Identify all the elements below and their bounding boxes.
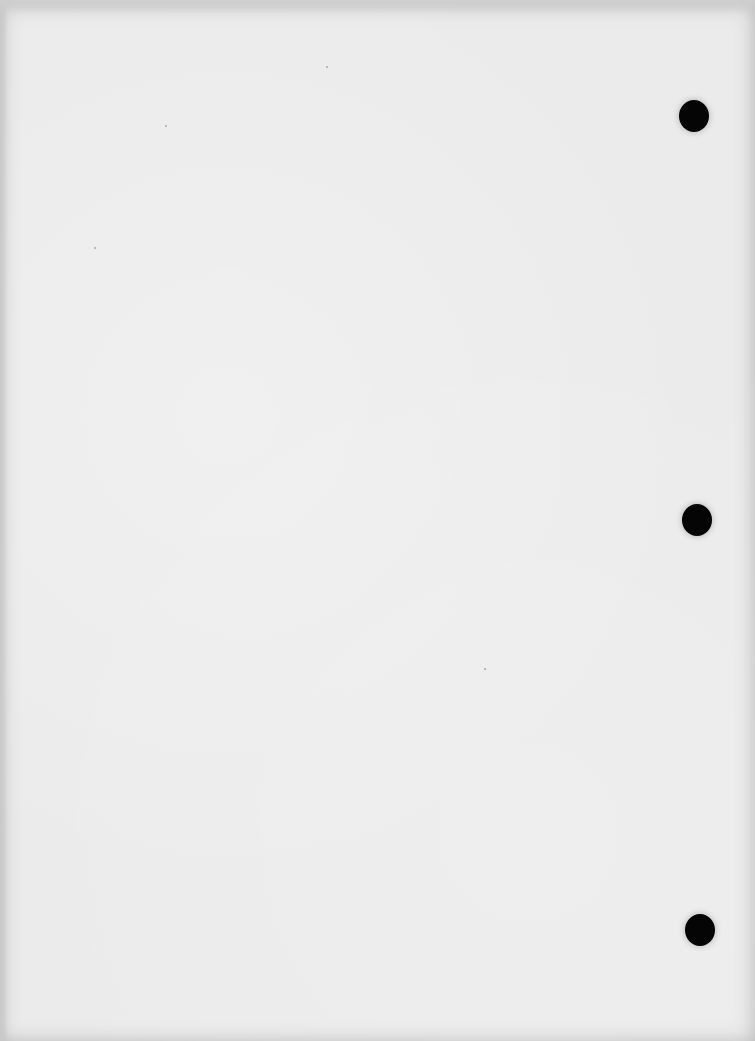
punch-hole-bottom bbox=[685, 914, 715, 946]
punch-hole-top bbox=[679, 100, 709, 132]
scanned-page bbox=[0, 0, 755, 1041]
paper-speck bbox=[165, 125, 167, 127]
punch-hole-middle bbox=[682, 504, 712, 536]
page-top-edge-shadow bbox=[0, 0, 755, 14]
page-left-edge-shadow bbox=[0, 0, 8, 1041]
paper-speck bbox=[326, 66, 328, 68]
paper-speck bbox=[94, 247, 96, 249]
paper-speck bbox=[484, 668, 486, 670]
